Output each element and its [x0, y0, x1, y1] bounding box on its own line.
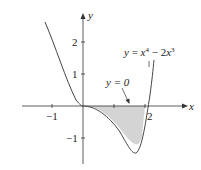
pointer-arrow-icon	[126, 99, 130, 105]
y-tick-label-2: 2	[72, 36, 78, 48]
x-tick-label-2: 2	[147, 110, 153, 122]
y-tick-label-neg1: −1	[66, 132, 78, 144]
pointer-line	[122, 88, 128, 101]
y-axis-label: y	[87, 9, 93, 21]
line-label: y = 0	[105, 76, 130, 88]
y-tick-label-1: 1	[72, 68, 78, 80]
x-tick-label-neg1: −1	[46, 110, 58, 122]
graph: y x −1 2 2 1 −1 y = 0 y = x4 − 2x3	[0, 0, 201, 170]
x-axis-label: x	[188, 100, 194, 112]
shaded-region	[83, 106, 145, 145]
x-axis-arrow-icon	[182, 104, 188, 109]
y-axis-arrow-icon	[81, 13, 86, 19]
function-label: y = x4 − 2x3	[123, 46, 175, 58]
